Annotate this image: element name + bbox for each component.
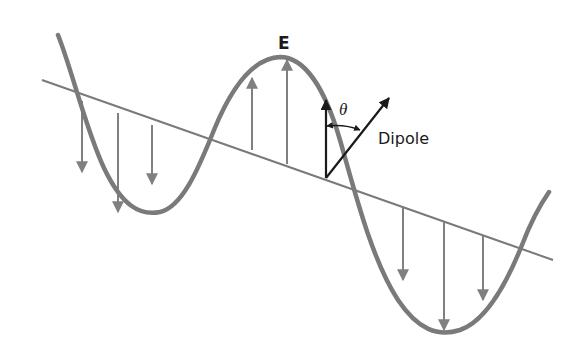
wave-curve	[58, 35, 549, 332]
field-label: E	[278, 33, 290, 53]
field-vectors	[82, 60, 483, 330]
wave-diagram	[0, 0, 575, 362]
angle-arc	[327, 126, 360, 131]
angle-label: θ	[339, 100, 347, 120]
dipole-label: Dipole	[378, 129, 429, 148]
